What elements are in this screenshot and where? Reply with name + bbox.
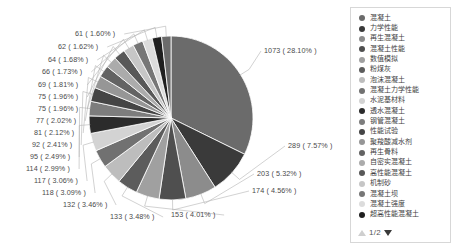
label-leader-line (79, 125, 90, 169)
legend-item[interactable]: 性能试验 (359, 127, 450, 137)
legend-item[interactable]: 透水混凝土 (359, 106, 450, 116)
legend-item[interactable]: 超高性能混凝土 (359, 210, 450, 220)
pie-slice-label: 75 ( 1.96% ) (38, 105, 78, 112)
legend-item-label: 性能试验 (370, 128, 398, 135)
legend-color-swatch (359, 191, 365, 197)
legend-list[interactable]: 混凝土力学性能再生混凝土混凝土性能数值模拟粉煤灰泡沫混凝土混凝土力学性能水泥基材… (359, 13, 450, 220)
legend-item-label: 高性能混凝土 (370, 170, 412, 177)
legend-item[interactable]: 再生骨料 (359, 147, 450, 157)
legend-color-swatch (359, 26, 365, 32)
legend-color-swatch (359, 77, 365, 83)
pie-slice-label: 64 ( 1.68% ) (48, 56, 88, 63)
legend-item[interactable]: 粉煤灰 (359, 65, 450, 75)
pie-slice-label: 153 ( 4.01% ) (171, 211, 215, 218)
pie-slice-label: 133 ( 3.48% ) (110, 213, 154, 220)
legend-item-label: 再生混凝土 (370, 35, 405, 42)
legend-item[interactable]: 机制砂 (359, 179, 450, 189)
legend-item-label: 超高性能混凝土 (370, 211, 419, 218)
legend-panel[interactable]: 混凝土力学性能再生混凝土混凝土性能数值模拟粉煤灰泡沫混凝土混凝土力学性能水泥基材… (350, 7, 451, 243)
legend-item[interactable]: 混凝土坝 (359, 189, 450, 199)
legend-item[interactable]: 泡沫混凝土 (359, 75, 450, 85)
legend-color-swatch (359, 119, 365, 125)
legend-color-swatch (359, 150, 365, 156)
legend-item-label: 水泥基材料 (370, 97, 405, 104)
legend-item-label: 泡沫混凝土 (370, 77, 405, 84)
legend-color-swatch (359, 98, 365, 104)
pie-slice-label: 118 ( 3.09% ) (42, 189, 86, 196)
legend-item-label: 粉煤灰 (370, 66, 391, 73)
pie-slice-label: 1073 ( 28.10% ) (264, 47, 317, 54)
legend-item-label: 混凝土坝 (370, 191, 398, 198)
legend-color-swatch (359, 139, 365, 145)
legend-color-swatch (359, 212, 365, 218)
pie-slice-label: 81 ( 2.12% ) (34, 129, 74, 136)
legend-item[interactable]: 聚羧酸减水剂 (359, 137, 450, 147)
legend-item-label: 混凝土强度 (370, 201, 405, 208)
legend-color-swatch (359, 36, 365, 42)
legend-item[interactable]: 数值模拟 (359, 54, 450, 64)
pie-slice-label: 289 ( 7.57% ) (288, 142, 332, 149)
chart-canvas: 1073 ( 28.10% )289 ( 7.57% )203 ( 5.32% … (0, 0, 458, 251)
legend-item-label: 再生骨料 (370, 149, 398, 156)
legend-item[interactable]: 混凝土力学性能 (359, 85, 450, 95)
legend-item[interactable]: 再生混凝土 (359, 34, 450, 44)
legend-color-swatch (359, 129, 365, 135)
legend-color-swatch (359, 15, 365, 21)
legend-color-swatch (359, 57, 365, 63)
pie-slice-label: 117 ( 3.06% ) (34, 177, 78, 184)
legend-color-swatch (359, 201, 365, 207)
pie-slice-label: 66 ( 1.73% ) (42, 68, 82, 75)
legend-item[interactable]: 钢管混凝土 (359, 116, 450, 126)
legend-item-label: 聚羧酸减水剂 (370, 139, 412, 146)
legend-page-indicator: 1/2 (369, 228, 381, 237)
legend-item-label: 钢管混凝土 (370, 118, 405, 125)
pie-slice-label: 174 ( 4.56% ) (252, 187, 296, 194)
legend-item[interactable]: 高性能混凝土 (359, 168, 450, 178)
legend-color-swatch (359, 181, 365, 187)
legend-item[interactable]: 混凝土强度 (359, 199, 450, 209)
pie-slice-label: 77 ( 2.02% ) (36, 117, 76, 124)
legend-item[interactable]: 混凝土 (359, 13, 450, 23)
pie-slice-label: 95 ( 2.49% ) (30, 153, 70, 160)
pie-slice-label: 75 ( 1.96% ) (38, 93, 78, 100)
pie-slice-label: 61 ( 1.60% ) (75, 30, 115, 37)
legend-item-label: 数值模拟 (370, 56, 398, 63)
legend-item[interactable]: 水泥基材料 (359, 96, 450, 106)
pie-slice-label: 92 ( 2.41% ) (32, 141, 72, 148)
triangle-down-icon[interactable] (384, 230, 392, 236)
legend-pager[interactable]: 1/2 (358, 228, 392, 237)
pie-slice-label: 132 ( 3.46% ) (63, 201, 107, 208)
label-leader-line (91, 158, 101, 193)
legend-color-swatch (359, 46, 365, 52)
legend-item-label: 混凝土性能 (370, 46, 405, 53)
pie-slice-label: 62 ( 1.62% ) (58, 43, 98, 50)
legend-item-label: 透水混凝土 (370, 108, 405, 115)
legend-item[interactable]: 力学性能 (359, 23, 450, 33)
pie-slice-label: 69 ( 1.81% ) (38, 81, 78, 88)
legend-color-swatch (359, 67, 365, 73)
pie-slice-group[interactable] (89, 36, 253, 200)
legend-color-swatch (359, 88, 365, 94)
label-leader-line (83, 142, 94, 181)
pie-slice-label: 203 ( 5.32% ) (257, 170, 301, 177)
legend-item-label: 混凝土 (370, 15, 391, 22)
legend-color-swatch (359, 108, 365, 114)
triangle-up-icon[interactable] (358, 230, 366, 236)
legend-item-label: 机制砂 (370, 180, 391, 187)
legend-item[interactable]: 混凝土性能 (359, 44, 450, 54)
legend-item[interactable]: 自密实混凝土 (359, 158, 450, 168)
legend-item-label: 力学性能 (370, 25, 398, 32)
label-leader-line (240, 51, 261, 75)
legend-color-swatch (359, 160, 365, 166)
legend-color-swatch (359, 170, 365, 176)
pie-slice-label: 114 ( 2.99% ) (26, 165, 70, 172)
legend-item-label: 自密实混凝土 (370, 159, 412, 166)
legend-item-label: 混凝土力学性能 (370, 87, 419, 94)
